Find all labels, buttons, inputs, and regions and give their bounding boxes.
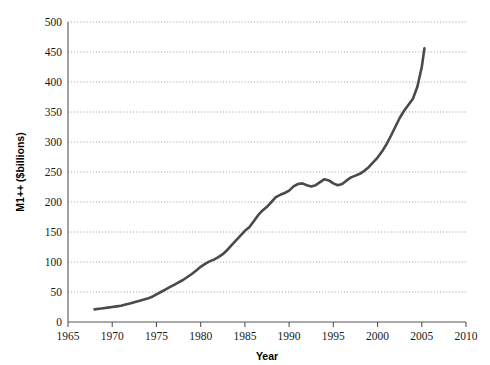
x-tick-label-1985: 1985 xyxy=(233,330,256,342)
x-axis-tick-labels: 1965197019751980198519901995200020052010 xyxy=(57,330,478,342)
y-tick-label-400: 400 xyxy=(45,76,63,88)
y-tick-label-100: 100 xyxy=(45,256,63,268)
x-tick-label-2005: 2005 xyxy=(410,330,433,342)
y-tick-label-50: 50 xyxy=(51,286,63,298)
x-tick-label-1970: 1970 xyxy=(101,330,124,342)
y-tick-label-500: 500 xyxy=(45,16,63,28)
x-tick-label-2010: 2010 xyxy=(455,330,478,342)
chart-figure: 050100150200250300350400450500 196519701… xyxy=(0,0,490,365)
x-axis-ticks xyxy=(68,322,466,327)
gridlines xyxy=(68,22,466,292)
y-tick-label-250: 250 xyxy=(45,166,63,178)
y-tick-label-300: 300 xyxy=(45,136,63,148)
y-tick-label-150: 150 xyxy=(45,226,63,238)
y-axis-title: M1++ ($billions) xyxy=(14,132,26,211)
y-tick-label-350: 350 xyxy=(45,106,63,118)
x-tick-label-1965: 1965 xyxy=(57,330,80,342)
x-axis-title: Year xyxy=(256,350,278,362)
y-tick-label-200: 200 xyxy=(45,196,63,208)
x-tick-label-2000: 2000 xyxy=(366,330,389,342)
y-tick-label-0: 0 xyxy=(56,316,62,328)
line-chart-canvas: 050100150200250300350400450500 196519701… xyxy=(0,0,490,365)
x-tick-label-1995: 1995 xyxy=(322,330,345,342)
data-series-line xyxy=(95,48,425,309)
x-tick-label-1980: 1980 xyxy=(189,330,212,342)
x-tick-label-1975: 1975 xyxy=(145,330,168,342)
y-tick-label-450: 450 xyxy=(45,46,63,58)
x-tick-label-1990: 1990 xyxy=(278,330,301,342)
y-axis-tick-labels: 050100150200250300350400450500 xyxy=(45,16,63,328)
